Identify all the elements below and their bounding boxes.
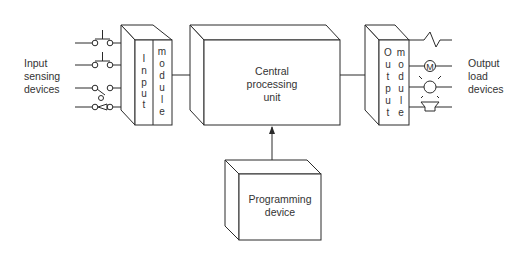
svg-text:n: n: [141, 65, 147, 76]
svg-text:Central: Central: [255, 65, 289, 77]
svg-text:l: l: [400, 95, 402, 106]
input-devices-label: Input sensing devices: [24, 57, 60, 95]
svg-text:Input: Input: [24, 57, 47, 69]
motor-icon: M: [409, 61, 452, 72]
svg-text:O: O: [384, 47, 392, 58]
limit-switch-icon: [75, 85, 128, 100]
pushbutton-icon: [75, 30, 128, 46]
svg-text:u: u: [385, 59, 391, 70]
heater-icon: [409, 32, 452, 47]
cpu-box: Central processing unit: [190, 25, 340, 125]
svg-text:u: u: [385, 95, 391, 106]
lamp-icon: [409, 76, 452, 98]
svg-text:unit: unit: [264, 91, 281, 103]
svg-text:e: e: [398, 107, 404, 118]
svg-text:sensing: sensing: [24, 70, 60, 82]
svg-text:d: d: [159, 70, 165, 81]
svg-text:m: m: [397, 47, 405, 58]
svg-text:l: l: [161, 94, 163, 105]
svg-text:processing: processing: [247, 78, 298, 90]
pressure-switch-icon: [75, 104, 128, 110]
svg-text:e: e: [159, 106, 165, 117]
input-switches: [75, 30, 128, 110]
svg-text:u: u: [398, 83, 404, 94]
svg-text:devices: devices: [24, 83, 60, 95]
svg-text:I: I: [143, 53, 146, 64]
output-module: O u t p u t m o d u l e: [365, 25, 409, 125]
svg-text:u: u: [159, 82, 165, 93]
svg-text:p: p: [385, 83, 391, 94]
svg-text:Programming: Programming: [248, 193, 311, 205]
horn-icon: [409, 102, 452, 111]
svg-text:devices: devices: [468, 83, 504, 95]
svg-text:p: p: [141, 77, 147, 88]
svg-text:m: m: [158, 46, 166, 57]
svg-text:device: device: [265, 206, 296, 218]
svg-text:load: load: [468, 70, 488, 82]
output-devices: M: [409, 32, 452, 111]
programming-device: Programming device: [225, 160, 321, 240]
svg-text:t: t: [387, 107, 390, 118]
svg-text:d: d: [398, 71, 404, 82]
input-module: I n p u t m o d u l e: [121, 25, 172, 125]
svg-text:M: M: [426, 62, 434, 72]
plc-diagram: Input sensing devices: [0, 0, 520, 254]
svg-text:o: o: [398, 59, 404, 70]
svg-text:t: t: [387, 71, 390, 82]
svg-text:o: o: [159, 58, 165, 69]
output-devices-label: Output load devices: [468, 57, 504, 95]
svg-text:u: u: [141, 88, 147, 99]
svg-text:t: t: [143, 99, 146, 110]
pushbutton-icon: [75, 52, 128, 68]
svg-text:Output: Output: [468, 57, 500, 69]
